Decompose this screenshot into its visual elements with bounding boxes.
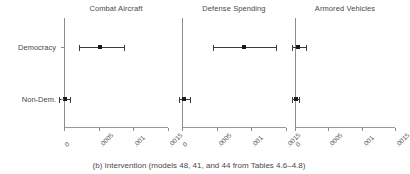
- y-axis-label-democracy: Democracy: [18, 43, 56, 52]
- x-axis-tick: [286, 128, 287, 131]
- x-axis-tick: [182, 128, 183, 131]
- x-axis-tick-label: 0: [181, 140, 189, 148]
- x-axis-line: [295, 127, 395, 128]
- x-axis-tick-label: 0: [294, 140, 302, 148]
- x-axis-tick-label: .0005: [216, 131, 232, 147]
- x-axis-tick-label: 0: [63, 140, 71, 148]
- x-axis-tick-label: .001: [250, 134, 264, 148]
- x-axis-tick-label: .001: [361, 134, 375, 148]
- panel-title: Defense Spending: [182, 4, 286, 13]
- x-axis-tick: [168, 128, 169, 131]
- confidence-interval-cap: [190, 97, 191, 103]
- panel-defense-spending: Defense Spending0.0005.001.0015: [182, 18, 286, 128]
- plot-area: 0.0005.001.0015: [295, 18, 395, 128]
- x-axis-tick: [362, 128, 363, 131]
- x-axis-tick-label: .0015: [394, 131, 410, 147]
- confidence-interval-cap: [70, 97, 71, 103]
- confidence-interval-cap: [124, 45, 125, 51]
- confidence-interval-cap: [79, 45, 80, 51]
- x-axis-tick: [133, 128, 134, 131]
- x-axis-tick-label: .0005: [327, 131, 343, 147]
- zero-reference-line: [295, 18, 296, 128]
- confidence-interval-cap: [299, 97, 300, 103]
- confidence-interval-cap: [213, 45, 214, 51]
- x-axis-tick-label: .0015: [167, 131, 183, 147]
- x-axis-tick: [295, 128, 296, 131]
- panel-combat-aircraft: Combat Aircraft0.0005.001.0015: [64, 18, 168, 128]
- y-axis-tick: [61, 99, 64, 100]
- x-axis-tick: [251, 128, 252, 131]
- point-estimate-marker: [182, 97, 186, 101]
- x-axis-line: [64, 127, 168, 128]
- x-axis-tick: [328, 128, 329, 131]
- zero-reference-line: [64, 18, 65, 128]
- point-estimate-marker: [98, 45, 102, 49]
- panel-title: Armored Vehicles: [295, 4, 395, 13]
- x-axis-tick-label: .001: [132, 134, 146, 148]
- confidence-interval-cap: [292, 45, 293, 51]
- plot-area: 0.0005.001.0015: [182, 18, 286, 128]
- point-estimate-marker: [242, 45, 246, 49]
- point-estimate-marker: [296, 45, 300, 49]
- confidence-interval-cap: [59, 97, 60, 103]
- y-axis-label-nondem: Non-Dem.: [22, 95, 56, 104]
- figure-caption: (b) Intervention (models 48, 41, and 44 …: [0, 161, 398, 170]
- zero-reference-line: [182, 18, 183, 128]
- panel-title: Combat Aircraft: [64, 4, 168, 13]
- x-axis-line: [182, 127, 286, 128]
- x-axis-tick: [64, 128, 65, 131]
- x-axis-tick: [217, 128, 218, 131]
- panel-armored-vehicles: Armored Vehicles0.0005.001.0015: [295, 18, 395, 128]
- x-axis-tick: [99, 128, 100, 131]
- x-axis-tick: [395, 128, 396, 131]
- confidence-interval-cap: [306, 45, 307, 51]
- x-axis-tick-label: .0005: [98, 131, 114, 147]
- point-estimate-marker: [294, 97, 298, 101]
- confidence-interval-cap: [276, 45, 277, 51]
- plot-area: 0.0005.001.0015: [64, 18, 168, 128]
- y-axis-tick: [61, 47, 64, 48]
- confidence-interval-cap: [179, 97, 180, 103]
